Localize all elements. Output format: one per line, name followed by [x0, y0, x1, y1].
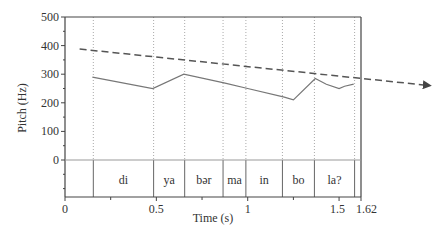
- pitch-chart: 5004003002001000 00.511.51.62 diyabərmai…: [0, 0, 443, 239]
- y-tick-label: 100: [41, 124, 59, 138]
- syllable-label: bo: [292, 173, 304, 187]
- y-tick-label: 300: [41, 67, 59, 81]
- syllable-tier: diyabərmainbola?: [119, 173, 342, 187]
- syllable-label: la?: [328, 173, 342, 187]
- y-axis-label: Pitch (Hz): [15, 83, 29, 133]
- syllable-label: bər: [196, 173, 211, 187]
- x-axis-label: Time (s): [193, 211, 234, 225]
- x-tick-label: 0.5: [149, 202, 164, 216]
- x-tick-label: 1.5: [330, 202, 345, 216]
- syllable-label: ma: [227, 173, 242, 187]
- syllable-label: di: [119, 173, 129, 187]
- x-tick-label: 1: [245, 202, 251, 216]
- series-layer: [80, 49, 430, 100]
- syllable-label: ya: [163, 173, 175, 187]
- y-tick-label: 200: [41, 96, 59, 110]
- declination-dashed-line: [80, 49, 430, 86]
- x-tick-label: 0: [62, 202, 68, 216]
- y-tick-label: 400: [41, 39, 59, 53]
- plot-frame: [65, 17, 361, 197]
- pitch-contour-line: [92, 74, 353, 100]
- y-tick-label: 500: [41, 10, 59, 24]
- y-tick-label: 0: [53, 153, 59, 167]
- syllable-boundaries: [93, 17, 354, 197]
- syllable-label: in: [259, 173, 268, 187]
- x-tick-label: 1.62: [356, 202, 377, 216]
- y-axis: 5004003002001000: [41, 10, 65, 189]
